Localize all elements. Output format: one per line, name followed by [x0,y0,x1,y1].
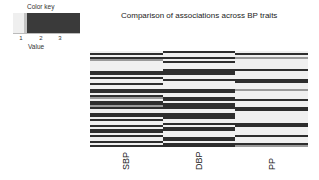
heatmap-column-dbp [163,51,236,147]
column-label-pp: PP [267,158,277,170]
heatmap-column-pp [235,51,308,147]
color-key-tick: 2 [39,35,42,41]
heatmap-cell [163,145,236,147]
color-key-title: Color key [27,3,54,10]
chart-title: Comparison of associations across BP tra… [121,11,277,20]
color-key-tick: 1 [19,35,22,41]
column-label-dbp: DBP [194,151,204,170]
color-key-segment [27,13,80,33]
color-key-tick: 3 [58,35,61,41]
heatmap [90,51,308,147]
color-key-axis [13,33,80,34]
heatmap-column-sbp [90,51,163,147]
color-key-segment [13,13,24,33]
heatmap-cell [90,145,163,147]
column-label-sbp: SBP [121,152,131,170]
color-key-xlabel: Value [28,43,44,50]
color-key-gradient [13,13,80,33]
heatmap-cell [235,145,308,147]
